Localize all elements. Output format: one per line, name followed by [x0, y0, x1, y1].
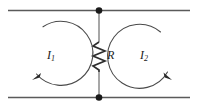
right-mesh-loop-arc	[108, 24, 168, 88]
loop-arrow-clockwise-icon	[164, 73, 173, 81]
top-node-dot	[96, 7, 103, 14]
bottom-node-dot	[96, 94, 103, 101]
left-mesh-loop-arc	[37, 21, 93, 85]
circuit-diagram: I1 R I2	[0, 0, 199, 111]
current-right-subscript: 2	[144, 54, 148, 63]
current-label-left: I1	[47, 49, 55, 61]
circuit-canvas	[0, 0, 199, 111]
resistor-zigzag-icon	[93, 42, 105, 72]
current-label-right: I2	[140, 49, 148, 61]
resistor-symbol: R	[107, 48, 114, 62]
resistor-label: R	[107, 49, 114, 61]
current-left-subscript: 1	[51, 54, 55, 63]
